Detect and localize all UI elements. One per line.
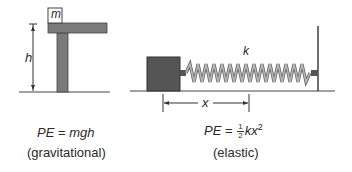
- height-label: h: [25, 50, 32, 65]
- displacement-label: x: [202, 95, 209, 110]
- spring-connector-left: [180, 70, 186, 76]
- spring-constant-label: k: [243, 44, 249, 58]
- one-half-fraction: 12: [237, 123, 243, 140]
- table-top: [48, 23, 107, 33]
- gravitational-caption: (gravitational): [27, 145, 106, 160]
- spring-block: [147, 57, 180, 91]
- spring: [186, 64, 310, 82]
- table-stem: [57, 33, 68, 92]
- gravitational-formula: PE = mgh: [37, 125, 94, 140]
- elastic-formula: PE = 12kx2: [204, 122, 263, 140]
- elastic-caption: (elastic): [213, 145, 259, 160]
- mass-label: m: [51, 7, 61, 21]
- spring-connector-right: [311, 70, 318, 76]
